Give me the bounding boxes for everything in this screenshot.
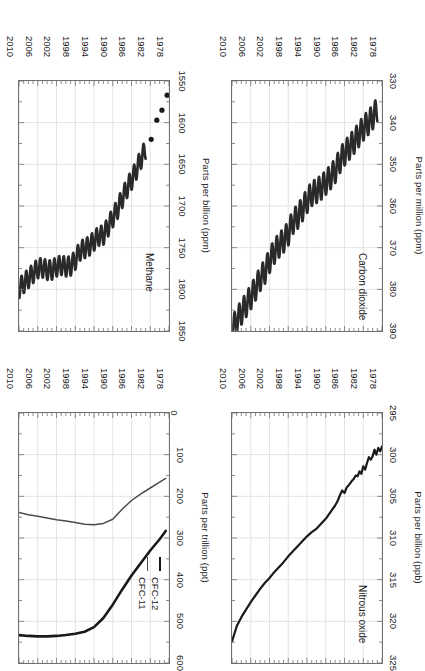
x-tick-label: 1994 bbox=[294, 368, 304, 389]
x-tick-label: 1990 bbox=[99, 36, 109, 57]
x-tick-label: 1986 bbox=[118, 368, 128, 389]
x-tick-label: 2010 bbox=[6, 368, 16, 389]
y-tick-label: 360 bbox=[388, 198, 398, 214]
x-tick-label: 2006 bbox=[24, 368, 34, 389]
x-tick-label: 2002 bbox=[43, 36, 53, 57]
y-tick-label: 370 bbox=[388, 240, 398, 256]
y-tick-label: 380 bbox=[388, 281, 398, 297]
x-tick-label: 1982 bbox=[350, 36, 360, 57]
x-tick-label: 1978 bbox=[369, 368, 379, 389]
x-tick-label: 2006 bbox=[237, 368, 247, 389]
x-tick-label: 1978 bbox=[156, 368, 166, 389]
y-tick-label: 1750 bbox=[178, 237, 188, 258]
plot-area-cfc: CFC-12CFC-11 bbox=[18, 412, 170, 664]
y-axis-label-text: Parts per trillion (ppt) bbox=[200, 493, 211, 584]
y-axis-label-text: Parts per billion (ppm) bbox=[200, 158, 211, 253]
x-tick-label: 1986 bbox=[331, 36, 341, 57]
plot-area-methane: Methane bbox=[18, 80, 170, 332]
y-tick-label: 300 bbox=[175, 530, 185, 546]
x-tick-label: 1990 bbox=[312, 368, 322, 389]
y-tick-label: 305 bbox=[388, 488, 398, 504]
x-tick-label: 1982 bbox=[137, 368, 147, 389]
y-axis-label-text: Parts per billion (ppb) bbox=[414, 492, 425, 585]
x-tick-label: 2002 bbox=[256, 368, 266, 389]
x-tick-label: 1986 bbox=[331, 368, 341, 389]
y-tick-label: 340 bbox=[388, 115, 398, 131]
panel-carbon-dioxide: Parts per million (ppm) 3303403503603703… bbox=[212, 0, 425, 332]
x-tick-label: 1998 bbox=[275, 36, 285, 57]
y-tick-label: 310 bbox=[388, 530, 398, 546]
panel-title-nitrous-oxide: Nitrous oxide bbox=[357, 585, 368, 643]
y-tick-label: 330 bbox=[388, 73, 398, 89]
x-tick-label: 2010 bbox=[219, 368, 229, 389]
y-tick-label: 1650 bbox=[178, 154, 188, 175]
y-tick-labels-methane: 1550160016501700175018001850 bbox=[172, 80, 198, 332]
y-tick-label: 320 bbox=[388, 613, 398, 629]
x-tick-label: 1978 bbox=[156, 36, 166, 57]
panel-nitrous-oxide: Parts per billion (ppb) 2953003053103153… bbox=[212, 332, 425, 664]
y-tick-label: 390 bbox=[388, 323, 398, 339]
x-tick-label: 2006 bbox=[237, 36, 247, 57]
x-tick-label: 1998 bbox=[62, 368, 72, 389]
y-tick-label: 295 bbox=[388, 405, 398, 421]
y-tick-label: 325 bbox=[388, 655, 398, 671]
y-tick-labels-nitrous-oxide: 295300305310315320325 bbox=[385, 412, 411, 664]
y-tick-labels-cfc: 0100200300400500600 bbox=[172, 412, 198, 664]
y-tick-label: 315 bbox=[388, 572, 398, 588]
panel-title-carbon-dioxide: Carbon dioxide bbox=[357, 253, 368, 320]
y-tick-label: 1700 bbox=[178, 195, 188, 216]
panel-title-methane: Methane bbox=[144, 253, 155, 292]
y-tick-label: 350 bbox=[388, 156, 398, 172]
x-tick-labels-cfc: 197819821986199019941998200220062010 bbox=[18, 364, 170, 410]
x-tick-label: 2006 bbox=[24, 36, 34, 57]
panel-methane: Parts per billion (ppm) 1550160016501700… bbox=[0, 0, 212, 332]
x-tick-labels-carbon-dioxide: 197819821986199019941998200220062010 bbox=[231, 32, 383, 78]
y-tick-label: 400 bbox=[175, 572, 185, 588]
x-tick-label: 1990 bbox=[312, 36, 322, 57]
x-tick-label: 1982 bbox=[137, 36, 147, 57]
y-axis-label-text: Parts per million (ppm) bbox=[413, 157, 424, 255]
x-tick-label: 1998 bbox=[62, 36, 72, 57]
plot-area-carbon-dioxide: Carbon dioxide bbox=[231, 80, 383, 332]
plot-area-nitrous-oxide: Nitrous oxide bbox=[231, 412, 383, 664]
y-tick-label: 1850 bbox=[178, 320, 188, 341]
y-tick-label: 500 bbox=[175, 613, 185, 629]
y-axis-label-cfc: Parts per trillion (ppt) bbox=[198, 412, 214, 664]
x-tick-label: 2002 bbox=[43, 368, 53, 389]
legend-entry: CFC-12 bbox=[150, 577, 161, 610]
x-tick-label: 2010 bbox=[219, 36, 229, 57]
legend-entry: CFC-11 bbox=[137, 577, 148, 610]
legend-swatch bbox=[147, 557, 148, 571]
x-tick-label: 2002 bbox=[256, 36, 266, 57]
y-axis-label-methane: Parts per billion (ppm) bbox=[198, 80, 214, 332]
y-tick-labels-carbon-dioxide: 330340350360370380390 bbox=[385, 80, 411, 332]
y-tick-label: 0 bbox=[170, 410, 180, 415]
x-tick-label: 1994 bbox=[81, 368, 91, 389]
plot-svg-cfc bbox=[19, 413, 169, 663]
panel-cfc: Parts per trillion (ppt) 010020030040050… bbox=[0, 332, 212, 664]
y-tick-label: 600 bbox=[175, 655, 185, 671]
y-tick-label: 300 bbox=[388, 447, 398, 463]
x-tick-label: 1994 bbox=[81, 36, 91, 57]
x-tick-label: 1990 bbox=[99, 368, 109, 389]
x-tick-label: 1982 bbox=[350, 368, 360, 389]
x-tick-labels-nitrous-oxide: 197819821986199019941998200220062010 bbox=[231, 364, 383, 410]
y-axis-label-carbon-dioxide: Parts per million (ppm) bbox=[411, 80, 425, 332]
x-tick-label: 1986 bbox=[118, 36, 128, 57]
y-tick-label: 100 bbox=[175, 447, 185, 463]
y-tick-label: 1550 bbox=[178, 70, 188, 91]
x-tick-label: 1998 bbox=[275, 368, 285, 389]
plot-svg-methane bbox=[19, 81, 169, 331]
legend-swatch bbox=[159, 557, 161, 571]
x-tick-label: 2010 bbox=[6, 36, 16, 57]
y-axis-label-nitrous-oxide: Parts per billion (ppb) bbox=[411, 412, 425, 664]
x-tick-label: 1978 bbox=[369, 36, 379, 57]
x-tick-label: 1994 bbox=[294, 36, 304, 57]
y-tick-label: 200 bbox=[175, 488, 185, 504]
y-tick-label: 1600 bbox=[178, 112, 188, 133]
y-tick-label: 1800 bbox=[178, 279, 188, 300]
x-tick-labels-methane: 197819821986199019941998200220062010 bbox=[18, 32, 170, 78]
